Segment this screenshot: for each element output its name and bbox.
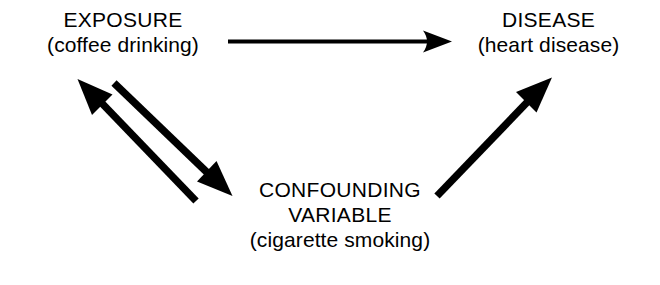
node-disease-example: (heart disease) [437, 33, 660, 58]
node-confounder-title-line1: CONFOUNDING [224, 178, 456, 203]
node-confounder-title-line2: VARIABLE [224, 203, 456, 228]
arrow-exposure-to-disease [228, 31, 452, 53]
node-exposure: EXPOSURE (coffee drinking) [0, 8, 246, 58]
node-confounding-variable: CONFOUNDING VARIABLE (cigarette smoking) [224, 178, 456, 252]
node-exposure-example: (coffee drinking) [0, 33, 246, 58]
node-confounder-example: (cigarette smoking) [224, 228, 456, 253]
node-exposure-title: EXPOSURE [0, 8, 246, 33]
node-disease: DISEASE (heart disease) [437, 8, 660, 58]
node-disease-title: DISEASE [437, 8, 660, 33]
diagram-canvas: EXPOSURE (coffee drinking) DISEASE (hear… [0, 0, 660, 285]
